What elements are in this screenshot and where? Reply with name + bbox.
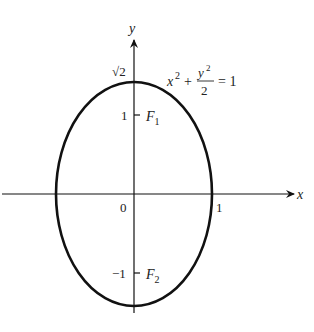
svg-text:2: 2 xyxy=(175,70,180,81)
focus-f2-label: F2 xyxy=(145,267,160,285)
y-tick-1-label: 1 xyxy=(121,108,128,123)
ellipse-equation: x 2 + y 2 2 = 1 xyxy=(166,63,236,98)
svg-text:2: 2 xyxy=(206,63,211,73)
svg-text:2: 2 xyxy=(201,83,208,98)
x-tick-1-label: 1 xyxy=(216,200,223,215)
svg-text:= 1: = 1 xyxy=(218,74,236,89)
svg-text:x: x xyxy=(166,74,174,89)
origin-label: 0 xyxy=(120,200,127,215)
svg-text:+: + xyxy=(184,74,192,89)
focus-f1-label: F1 xyxy=(145,109,160,127)
ellipse-diagram: y x 0 1 1 −1 √2 F1 F2 x 2 + y 2 2 = 1 xyxy=(0,0,314,332)
y-tick-neg1-label: −1 xyxy=(112,266,126,281)
svg-text:y: y xyxy=(196,65,204,80)
sqrt2-label: √2 xyxy=(112,64,126,79)
y-axis-label: y xyxy=(127,21,136,36)
x-axis-label: x xyxy=(296,187,304,202)
